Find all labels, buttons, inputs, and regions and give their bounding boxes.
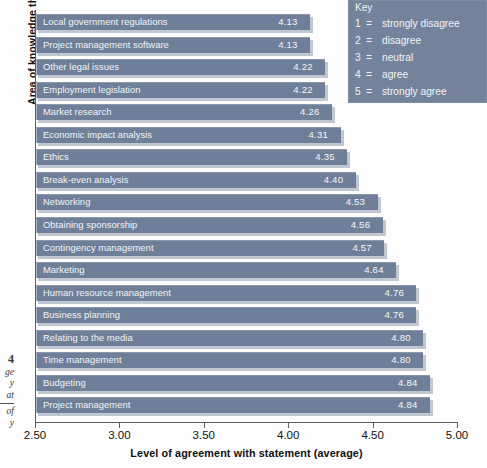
bar-category-label: Budgeting [43, 375, 86, 391]
legend-scale-number: 3 [355, 50, 366, 65]
x-axis-tick [119, 423, 120, 428]
legend-scale-text: neutral [382, 50, 413, 65]
bar-value-label: 4.57 [352, 240, 371, 256]
bar [35, 262, 396, 278]
bar-category-label: Time management [43, 352, 122, 368]
bar-row: Local government regulations4.13 [35, 14, 310, 30]
bar-row: Ethics4.35 [35, 149, 347, 165]
bar [35, 375, 430, 391]
bar-value-label: 4.76 [384, 307, 403, 323]
bar-row: Break-even analysis4.40 [35, 172, 356, 188]
bar-row: Economic impact analysis4.31 [35, 127, 341, 143]
legend-row: 1=strongly disagree [355, 16, 460, 31]
caption-rule [0, 403, 14, 404]
bar-category-label: Ethics [43, 149, 69, 165]
legend-equals-sign: = [366, 33, 382, 48]
bar-row: Relating to the media4.80 [35, 330, 423, 346]
bar-category-label: Networking [43, 194, 90, 210]
bar-value-label: 4.56 [351, 217, 370, 233]
bar-value-label: 4.35 [315, 149, 334, 165]
legend-equals-sign: = [366, 67, 382, 82]
x-axis-tick-label: 4.00 [258, 429, 318, 441]
bar-value-label: 4.40 [324, 172, 343, 188]
bar-category-label: Local government regulations [43, 14, 167, 30]
bar-category-label: Human resource management [43, 285, 171, 301]
bar-row: Obtaining sponsorship4.56 [35, 217, 383, 233]
bar-row: Contingency management4.57 [35, 240, 384, 256]
margin-caption-line-3: at [7, 390, 14, 400]
x-axis-tick-label: 3.00 [89, 429, 149, 441]
bar-category-label: Market research [43, 104, 111, 120]
bar-row: Market research4.26 [35, 104, 332, 120]
bar-value-label: 4.53 [346, 194, 365, 210]
x-axis-tick [457, 423, 458, 428]
margin-caption-line-2: y [10, 378, 14, 388]
bar-value-label: 4.26 [300, 104, 319, 120]
x-axis-tick [35, 423, 36, 428]
margin-caption-line-1: ge [5, 367, 14, 377]
bar-category-label: Project management software [43, 37, 169, 53]
bar [35, 149, 347, 165]
bar-value-label: 4.64 [364, 262, 383, 278]
legend-scale-number: 1 [355, 16, 366, 31]
x-axis-tick-label: 2.50 [5, 429, 65, 441]
bar-row: Business planning4.76 [35, 307, 416, 323]
bar-row: Project management4.84 [35, 397, 430, 413]
legend-equals-sign: = [366, 50, 382, 65]
bar-category-label: Contingency management [43, 240, 154, 256]
bar-category-label: Break-even analysis [43, 172, 128, 188]
legend-scale-text: disagree [382, 33, 421, 48]
x-axis-title: Level of agreement with statement (avera… [35, 447, 458, 459]
legend-key-box: Key 1=strongly disagree2=disagree3=neutr… [348, 0, 487, 103]
legend-scale-text: agree [382, 67, 408, 82]
bar-row: Employment legislation4.22 [35, 82, 325, 98]
bar-category-label: Employment legislation [43, 82, 141, 98]
bar-row: Budgeting4.84 [35, 375, 430, 391]
bar-row: Time management4.80 [35, 352, 423, 368]
bar-row: Other legal issues4.22 [35, 59, 325, 75]
bar-category-label: Project management [43, 397, 130, 413]
bar-category-label: Other legal issues [43, 59, 119, 75]
legend-row: 3=neutral [355, 50, 413, 65]
legend-title: Key [355, 2, 372, 13]
bar-value-label: 4.31 [309, 127, 328, 143]
bar-value-label: 4.80 [391, 330, 410, 346]
margin-caption-line-5: y [10, 418, 14, 428]
legend-equals-sign: = [366, 16, 382, 31]
figure-number: 4 [8, 352, 14, 366]
legend-scale-number: 5 [355, 84, 366, 99]
bar-category-label: Obtaining sponsorship [43, 217, 137, 233]
legend-row: 2=disagree [355, 33, 421, 48]
legend-scale-number: 4 [355, 67, 366, 82]
y-axis-line [35, 10, 36, 423]
x-axis-tick-label: 3.50 [174, 429, 234, 441]
x-axis-line [35, 422, 458, 423]
x-axis-tick-label: 5.00 [427, 429, 487, 441]
bar-row: Project management software4.13 [35, 37, 310, 53]
legend-row: 4=agree [355, 67, 408, 82]
figure-container: 4 ge y at of y Area of knowledge that ev… [0, 0, 487, 468]
bar-category-label: Relating to the media [43, 330, 133, 346]
bar-value-label: 4.22 [293, 59, 312, 75]
legend-equals-sign: = [366, 84, 382, 99]
legend-scale-number: 2 [355, 33, 366, 48]
bar-category-label: Marketing [43, 262, 85, 278]
bar-value-label: 4.76 [384, 285, 403, 301]
x-axis-tick [288, 423, 289, 428]
bar-value-label: 4.84 [398, 397, 417, 413]
x-axis-tick-label: 4.50 [343, 429, 403, 441]
bar-value-label: 4.84 [398, 375, 417, 391]
bar-row: Human resource management4.76 [35, 285, 416, 301]
bar-category-label: Business planning [43, 307, 120, 323]
margin-caption: 4 ge y at of y [0, 352, 14, 429]
legend-scale-text: strongly disagree [382, 16, 460, 31]
bar-category-label: Economic impact analysis [43, 127, 152, 143]
bar-value-label: 4.13 [278, 37, 297, 53]
bar-row: Marketing4.64 [35, 262, 396, 278]
legend-row: 5=strongly agree [355, 84, 447, 99]
bar-value-label: 4.13 [278, 14, 297, 30]
x-axis-tick [373, 423, 374, 428]
bar-row: Networking4.53 [35, 194, 378, 210]
legend-scale-text: strongly agree [382, 84, 447, 99]
margin-caption-line-4: of [7, 406, 14, 416]
